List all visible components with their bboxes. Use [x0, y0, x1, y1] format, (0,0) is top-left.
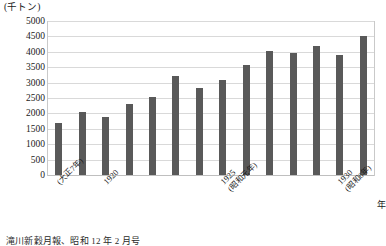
x-tick-year: 1920 [101, 167, 120, 186]
chart-caption: 滝川新穀月報、昭和 12 年 2 月号 [6, 236, 140, 246]
x-tick-era: (大正7年) [55, 156, 85, 186]
x-axis-tick-label: 1925(昭和元年) [219, 154, 259, 194]
x-axis-tick-label: 1930(昭和6年) [336, 156, 373, 193]
x-axis-tick-label: (大正7年) [55, 156, 85, 186]
x-axis-tick-label: 1920 [102, 168, 121, 187]
x-axis-unit-label: 年 [377, 200, 386, 210]
